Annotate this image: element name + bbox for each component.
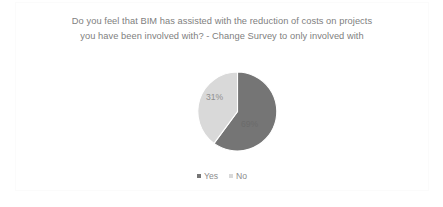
chart-title-line-2: you have been involved with? - Change Su… xyxy=(16,29,428,44)
chart-title-line-1: Do you feel that BIM has assisted with t… xyxy=(16,14,428,29)
pie-label-yes: 69% xyxy=(241,119,259,129)
legend-swatch-yes-square-marker-icon xyxy=(197,174,201,178)
pie-label-no: 31% xyxy=(206,92,224,102)
legend-label-yes: Yes xyxy=(204,171,218,181)
legend-swatch-no-square-marker-icon xyxy=(229,174,233,178)
legend-item-no[interactable]: No xyxy=(229,171,247,181)
legend-item-yes[interactable]: Yes xyxy=(197,171,218,181)
chart-legend: Yes No xyxy=(16,171,428,181)
pie-chart: 31% 69% xyxy=(183,57,293,167)
chart-title: Do you feel that BIM has assisted with t… xyxy=(16,14,428,44)
legend-label-no: No xyxy=(236,171,247,181)
chart-frame: Do you feel that BIM has assisted with t… xyxy=(15,2,429,191)
